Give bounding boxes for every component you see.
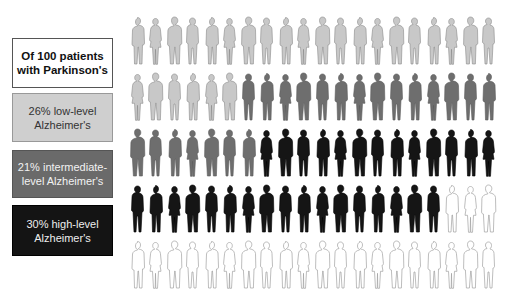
person-icon — [313, 128, 332, 180]
person-icon — [313, 16, 332, 68]
person-icon — [369, 128, 388, 180]
person-icon — [461, 16, 480, 68]
person-icon — [424, 72, 443, 124]
person-icon — [165, 128, 184, 180]
person-icon — [350, 184, 369, 236]
legend-low-level: 26% low-level Alzheimer's — [12, 93, 113, 142]
pictogram-row — [128, 12, 498, 68]
person-icon — [239, 240, 258, 292]
legend-high-level: 30% high-level Alzheimer's — [12, 205, 113, 256]
person-icon — [406, 184, 425, 236]
person-icon — [221, 72, 240, 124]
person-icon — [369, 16, 388, 68]
person-icon — [443, 240, 462, 292]
person-icon — [332, 240, 351, 292]
person-icon — [443, 184, 462, 236]
person-icon — [276, 16, 295, 68]
person-icon — [387, 72, 406, 124]
person-icon — [461, 240, 480, 292]
person-icon — [295, 128, 314, 180]
person-icon — [295, 72, 314, 124]
person-icon — [147, 240, 166, 292]
person-icon — [258, 184, 277, 236]
person-icon — [350, 16, 369, 68]
person-icon — [239, 16, 258, 68]
person-icon — [332, 72, 351, 124]
person-icon — [202, 240, 221, 292]
person-icon — [295, 16, 314, 68]
person-icon — [424, 184, 443, 236]
person-icon — [221, 128, 240, 180]
person-icon — [128, 184, 147, 236]
person-icon — [443, 16, 462, 68]
person-icon — [147, 128, 166, 180]
legend-mid-line2: level Alzheimer's — [18, 174, 107, 188]
person-icon — [480, 184, 499, 236]
person-icon — [369, 72, 388, 124]
person-icon — [350, 128, 369, 180]
person-icon — [295, 184, 314, 236]
person-icon — [147, 72, 166, 124]
person-icon — [461, 72, 480, 124]
person-icon — [295, 240, 314, 292]
legend-title-box: Of 100 patients with Parkinson's — [12, 38, 113, 88]
legend-title-line2: with Parkinson's — [17, 63, 108, 77]
person-icon — [202, 72, 221, 124]
person-icon — [313, 240, 332, 292]
legend-intermediate-level: 21% intermediate- level Alzheimer's — [12, 150, 113, 198]
person-icon — [424, 16, 443, 68]
person-icon — [443, 128, 462, 180]
person-icon — [128, 72, 147, 124]
person-icon — [221, 240, 240, 292]
pictogram-row — [128, 236, 498, 292]
person-icon — [406, 128, 425, 180]
person-icon — [165, 72, 184, 124]
person-icon — [387, 128, 406, 180]
person-icon — [387, 240, 406, 292]
person-icon — [369, 184, 388, 236]
person-icon — [258, 16, 277, 68]
person-icon — [165, 240, 184, 292]
person-icon — [184, 72, 203, 124]
person-icon — [128, 128, 147, 180]
person-icon — [387, 16, 406, 68]
person-icon — [276, 240, 295, 292]
person-icon — [313, 184, 332, 236]
person-icon — [406, 72, 425, 124]
person-icon — [184, 128, 203, 180]
person-icon — [258, 128, 277, 180]
person-icon — [184, 240, 203, 292]
person-icon — [461, 128, 480, 180]
person-icon — [276, 184, 295, 236]
person-icon — [424, 240, 443, 292]
person-icon — [128, 240, 147, 292]
person-icon — [258, 240, 277, 292]
legend-low-line1: 26% low-level — [29, 104, 97, 118]
person-icon — [461, 184, 480, 236]
person-icon — [480, 240, 499, 292]
person-icon — [239, 128, 258, 180]
person-icon — [147, 16, 166, 68]
person-icon — [480, 16, 499, 68]
person-icon — [258, 72, 277, 124]
person-icon — [350, 72, 369, 124]
person-icon — [332, 184, 351, 236]
person-icon — [480, 128, 499, 180]
person-icon — [184, 184, 203, 236]
person-icon — [221, 16, 240, 68]
person-icon — [276, 128, 295, 180]
person-icon — [239, 72, 258, 124]
person-icon — [350, 240, 369, 292]
person-icon — [221, 184, 240, 236]
person-icon — [369, 240, 388, 292]
legend-mid-line1: 21% intermediate- — [18, 160, 107, 174]
pictogram-row — [128, 68, 498, 124]
pictogram-row — [128, 180, 498, 236]
person-icon — [165, 184, 184, 236]
person-icon — [406, 240, 425, 292]
patient-pictogram-grid — [128, 12, 498, 292]
person-icon — [332, 16, 351, 68]
person-icon — [276, 72, 295, 124]
person-icon — [424, 128, 443, 180]
person-icon — [165, 16, 184, 68]
